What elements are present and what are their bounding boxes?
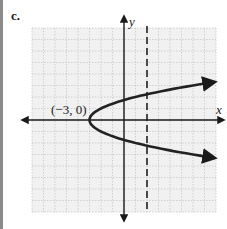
graph: x y (−3, 0) xyxy=(0,0,227,229)
vertex-label: (−3, 0) xyxy=(51,102,87,117)
x-axis-label: x xyxy=(215,102,222,117)
y-axis-label: y xyxy=(127,14,135,29)
